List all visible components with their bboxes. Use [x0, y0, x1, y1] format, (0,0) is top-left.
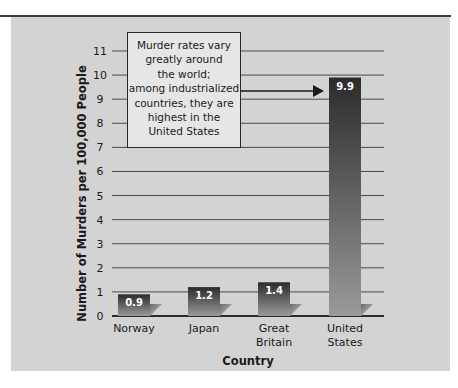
bar-value-label: 1.2 — [195, 290, 213, 301]
x-category-label: Japan — [188, 322, 220, 335]
bar-shadow — [290, 304, 302, 316]
x-category-label: Norway — [113, 322, 155, 335]
x-category-label: Great — [259, 322, 290, 335]
y-axis-title: Number of Murders per 100,000 People — [75, 65, 89, 322]
annotation-line: greatly around — [128, 52, 240, 66]
annotation-callout: Murder rates varygreatly aroundthe world… — [127, 32, 241, 148]
annotation-line: United States — [128, 124, 240, 138]
bar-shadow — [220, 304, 232, 316]
bar-united-states — [329, 78, 361, 317]
x-category-label: States — [328, 336, 363, 349]
bar-shadow — [150, 304, 162, 316]
annotation-line: the world; — [128, 67, 240, 81]
y-tick-label: 8 — [97, 117, 104, 130]
y-tick-label: 9 — [97, 93, 104, 106]
annotation-line: countries, they are — [128, 96, 240, 110]
x-axis-title: Country — [222, 354, 274, 368]
y-tick-label: 10 — [93, 69, 107, 82]
annotation-line: among industrialized — [128, 81, 240, 95]
bar-value-label: 1.4 — [265, 285, 283, 296]
annotation-line: Murder rates vary — [128, 38, 240, 52]
y-tick-label: 7 — [97, 141, 104, 154]
y-tick-label: 3 — [97, 238, 104, 251]
x-category-label: Britain — [256, 336, 292, 349]
y-tick-label: 4 — [97, 214, 104, 227]
x-category-label: United — [327, 322, 363, 335]
bar-shadow — [361, 304, 373, 316]
y-tick-label: 0 — [97, 310, 104, 323]
y-tick-label: 1 — [97, 286, 104, 299]
annotation-line: highest in the — [128, 110, 240, 124]
bar-value-label: 0.9 — [125, 297, 143, 308]
y-tick-label: 2 — [97, 262, 104, 275]
y-tick-label: 6 — [97, 165, 104, 178]
bar-value-label: 9.9 — [336, 81, 354, 92]
y-tick-label: 5 — [97, 190, 104, 203]
y-tick-label: 11 — [93, 45, 107, 58]
arrow-head-icon — [313, 85, 324, 97]
